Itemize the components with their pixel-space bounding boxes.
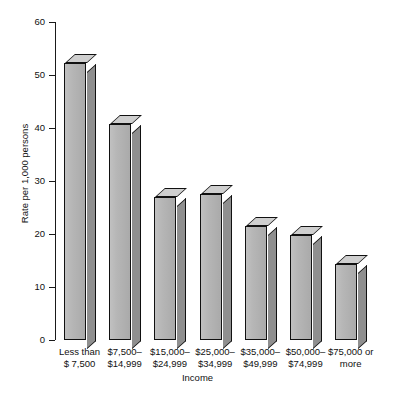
- y-axis-tick-label-text: 10: [5, 282, 45, 292]
- y-axis-tick: [49, 234, 55, 235]
- y-axis-tick: [49, 128, 55, 129]
- x-axis-category-label-line1: $75,000 or: [320, 346, 382, 358]
- bar: [245, 226, 278, 340]
- y-axis-title: Rate per 1,000 persons: [19, 104, 30, 244]
- plot-area: 0102030405060 Rate per 1,000 persons Les…: [0, 0, 395, 402]
- bar-front-face: [64, 63, 86, 340]
- bar-front-face: [109, 124, 131, 340]
- bar-side-face: [358, 265, 367, 349]
- bar-front-face: [200, 194, 222, 340]
- bar-top-face: [155, 188, 187, 197]
- x-axis-category-label: $75,000 ormore: [320, 346, 382, 369]
- y-axis-tick: [49, 340, 55, 341]
- y-axis-tick-label: 10: [0, 282, 45, 292]
- bar-top-face: [110, 115, 142, 124]
- bar-side-face: [313, 236, 322, 349]
- y-axis-tick-label-text: 50: [5, 70, 45, 80]
- y-axis-tick-label-text: 0: [5, 335, 45, 345]
- bar-top-face: [65, 54, 97, 63]
- bar: [64, 63, 97, 340]
- bar-side-face: [87, 64, 96, 349]
- x-axis-title: Income: [0, 372, 395, 383]
- bar-chart: 0102030405060 Rate per 1,000 persons Les…: [0, 0, 395, 402]
- bar-top-face: [246, 217, 278, 226]
- bar-side-face: [132, 125, 141, 349]
- y-axis-tick: [49, 22, 55, 23]
- y-axis-tick-label-text: 60: [5, 17, 45, 27]
- y-axis-tick: [49, 75, 55, 76]
- y-axis-tick-label: 60: [0, 17, 45, 27]
- y-axis-tick-label: 50: [0, 70, 45, 80]
- bar-side-face: [268, 227, 277, 349]
- bar: [335, 264, 368, 340]
- bar-top-face: [336, 255, 368, 264]
- y-axis-line: [55, 22, 56, 340]
- bar-front-face: [245, 226, 267, 340]
- bar-front-face: [154, 197, 176, 340]
- y-axis-tick: [49, 287, 55, 288]
- bar: [154, 197, 187, 340]
- bar: [109, 124, 142, 340]
- bar-top-face: [291, 226, 323, 235]
- x-axis-category-label-line2: more: [320, 358, 382, 370]
- y-axis-tick-label: 0: [0, 335, 45, 345]
- bar-top-face: [201, 185, 233, 194]
- y-axis-tick: [49, 181, 55, 182]
- bar: [200, 194, 233, 340]
- bar-side-face: [223, 195, 232, 349]
- bar-front-face: [290, 235, 312, 340]
- bar: [290, 235, 323, 340]
- bar-front-face: [335, 264, 357, 340]
- bar-side-face: [177, 198, 186, 349]
